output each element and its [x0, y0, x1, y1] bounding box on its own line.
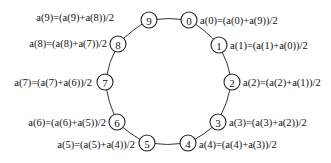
formula-node-8: a(8)=(a(8)+a(7))/2 [29, 38, 107, 50]
formula-node-1: a(1)=(a(1)+a(0))/2 [230, 40, 308, 52]
node-1: 1 [211, 37, 227, 53]
formula-node-9: a(9)=(a(9)+a(8))/2 [36, 12, 114, 24]
node-6: 6 [109, 114, 125, 130]
node-7: 7 [97, 74, 113, 90]
node-label: 4 [185, 138, 191, 150]
node-5: 5 [139, 135, 155, 151]
formula-node-4: a(4)=(a(4)+a(3))/2 [199, 139, 277, 151]
formula-node-7: a(7)=(a(7)+a(6))/2 [14, 77, 92, 89]
node-label: 8 [115, 39, 121, 51]
formula-labels: a(0)=(a(0)+a(9))/2a(1)=(a(1)+a(0))/2a(2)… [14, 12, 320, 151]
formula-node-2: a(2)=(a(2)+a(1))/2 [243, 77, 321, 89]
node-label: 7 [102, 77, 108, 89]
node-2: 2 [224, 74, 240, 90]
ring-nodes: 0123456789 [97, 12, 240, 151]
node-0: 0 [181, 12, 197, 28]
node-label: 6 [114, 117, 120, 129]
node-3: 3 [210, 114, 226, 130]
node-4: 4 [180, 135, 196, 151]
formula-node-3: a(3)=(a(3)+a(2))/2 [229, 117, 307, 129]
node-label: 0 [186, 15, 192, 27]
node-label: 3 [215, 117, 221, 129]
formula-node-0: a(0)=(a(0)+a(9))/2 [200, 15, 278, 27]
node-label: 2 [229, 77, 235, 89]
node-8: 8 [110, 36, 126, 52]
node-label: 9 [146, 15, 152, 27]
node-9: 9 [141, 12, 157, 28]
ring-diagram: 0123456789 a(0)=(a(0)+a(9))/2a(1)=(a(1)+… [0, 0, 331, 163]
formula-node-5: a(5)=(a(5)+a(4))/2 [57, 139, 135, 151]
formula-node-6: a(6)=(a(6)+a(5))/2 [28, 117, 106, 129]
node-label: 5 [144, 138, 150, 150]
node-label: 1 [216, 40, 222, 52]
